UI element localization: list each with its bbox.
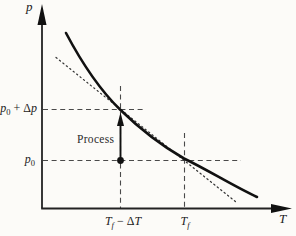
y-axis-arrowhead-icon <box>38 4 47 25</box>
ytick-p0dp-var2: p <box>31 101 37 115</box>
xtick-tf-minus-dt: Tf − ΔT <box>95 215 151 228</box>
diagram-canvas <box>0 0 296 236</box>
melting-curve <box>66 33 257 197</box>
xtick-tf: Tf <box>167 215 203 228</box>
xtick-tf-sub: f <box>187 220 189 230</box>
y-axis-label: p <box>26 0 33 13</box>
process-label: Process <box>77 133 114 146</box>
process-arrowhead-icon <box>117 113 124 127</box>
ytick-p0-plus-dp: p0 + Δp <box>0 102 37 115</box>
ytick-p0-sub: 0 <box>31 158 35 168</box>
pt-diagram: p T p0 + Δp p0 Process Tf − ΔT Tf <box>0 0 296 236</box>
xtick-tfdt-var2: T <box>134 214 141 228</box>
xtick-tfdt-var: T <box>105 214 112 228</box>
xtick-tfdt-mid: − Δ <box>114 214 134 228</box>
ytick-p0: p0 <box>0 153 35 166</box>
ytick-p0dp-mid: + Δ <box>11 101 31 115</box>
start-point-dot <box>117 157 124 164</box>
x-axis-label: T <box>279 212 286 225</box>
tangent-line <box>56 58 236 203</box>
